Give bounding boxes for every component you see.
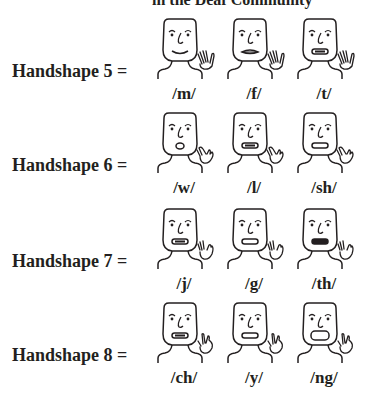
handshape-label: Handshape 5 = — [12, 61, 127, 82]
cued-speech-cell: /l/ — [224, 110, 292, 200]
phoneme-label: /l/ — [224, 178, 284, 198]
phoneme-label: /ch/ — [154, 368, 214, 388]
figure-title-fragment: in the Deaf Community — [152, 0, 312, 9]
cued-speech-cell: /j/ — [154, 206, 222, 296]
handshape-label: Handshape 7 = — [12, 251, 127, 272]
phoneme-label: /sh/ — [294, 178, 354, 198]
cued-speech-cell: /w/ — [154, 110, 222, 200]
handshape-label: Handshape 6 = — [12, 155, 127, 176]
phoneme-label: /t/ — [294, 84, 354, 104]
phoneme-label: /y/ — [224, 368, 284, 388]
cued-speech-cell: /g/ — [224, 206, 292, 296]
phoneme-label: /w/ — [154, 178, 214, 198]
handshape-row: Handshape 5 =/m//f//t/ — [0, 16, 368, 112]
cued-speech-cell: /t/ — [294, 16, 362, 106]
cued-speech-cell: /m/ — [154, 16, 222, 106]
cued-speech-cell: /ch/ — [154, 300, 222, 390]
handshape-label: Handshape 8 = — [12, 345, 127, 366]
phoneme-label: /m/ — [154, 84, 214, 104]
phoneme-label: /g/ — [224, 274, 284, 294]
phoneme-label: /th/ — [294, 274, 354, 294]
handshape-row: Handshape 6 =/w//l//sh/ — [0, 110, 368, 206]
phoneme-label: /ng/ — [294, 368, 354, 388]
phoneme-label: /f/ — [224, 84, 284, 104]
phoneme-label: /j/ — [154, 274, 214, 294]
cued-speech-cell: /ng/ — [294, 300, 362, 390]
cued-speech-cell: /y/ — [224, 300, 292, 390]
cued-speech-cell: /th/ — [294, 206, 362, 296]
cued-speech-cell: /f/ — [224, 16, 292, 106]
handshape-row: Handshape 8 =/ch//y//ng/ — [0, 300, 368, 394]
cued-speech-cell: /sh/ — [294, 110, 362, 200]
handshape-row: Handshape 7 =/j//g//th/ — [0, 206, 368, 302]
